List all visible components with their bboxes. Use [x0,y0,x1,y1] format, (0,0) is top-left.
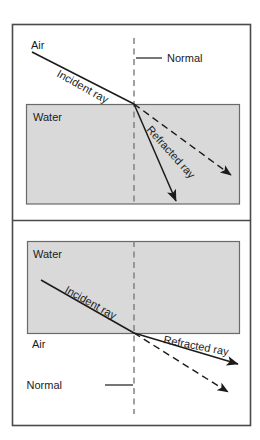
air-label-top: Air [31,39,45,51]
refraction-figure: Air Water Normal Incident ray Refracted … [0,0,260,440]
water-label-bottom: Water [33,248,62,260]
refraction-diagram-canvas: Air Water Normal Incident ray Refracted … [0,0,260,440]
water-label-top: Water [33,111,62,123]
normal-label-top: Normal [167,52,202,64]
air-label-bottom: Air [32,338,46,350]
normal-label-bottom: Normal [27,379,62,391]
